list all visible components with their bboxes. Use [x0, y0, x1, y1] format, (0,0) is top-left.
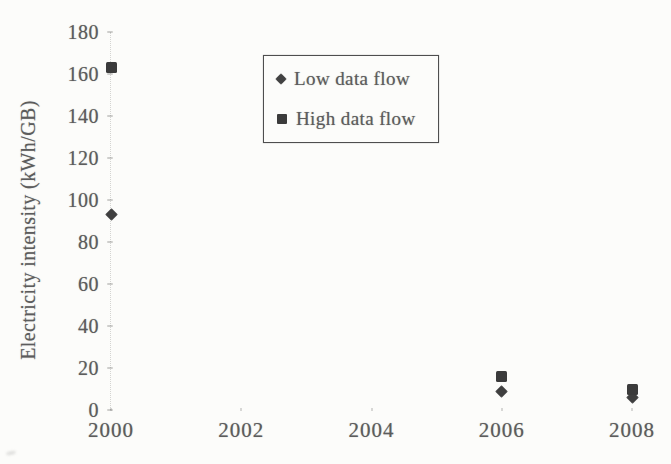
legend-label-low-data-flow: Low data flow	[294, 68, 410, 90]
scan-artifact-smudge	[6, 450, 17, 456]
y-tick-label: 60	[41, 273, 99, 295]
square-marker-icon	[277, 114, 287, 124]
y-tick-mark	[107, 115, 113, 117]
y-axis-title: Electricity intensity (kWh/GB)	[17, 100, 40, 360]
data-point-high-data-flow	[496, 371, 507, 382]
y-tick-label: 120	[41, 147, 99, 169]
legend-label-high-data-flow: High data flow	[296, 108, 416, 130]
y-tick-mark	[107, 157, 113, 159]
y-tick-mark	[107, 73, 113, 75]
y-tick-mark	[107, 31, 113, 33]
x-tick-label: 2004	[336, 419, 408, 441]
data-point-low-data-flow	[495, 385, 508, 398]
y-tick-mark	[107, 199, 113, 201]
x-tick-label: 2008	[596, 419, 668, 441]
y-tick-label: 20	[41, 357, 99, 379]
x-tick-mark	[240, 408, 242, 411]
y-tick-label: 40	[41, 315, 99, 337]
y-tick-label: 180	[41, 21, 99, 43]
legend-item-low-data-flow: Low data flow	[277, 68, 438, 90]
y-tick-mark	[107, 283, 113, 285]
y-tick-label: 100	[41, 189, 99, 211]
x-tick-mark	[501, 408, 503, 411]
x-tick-label: 2006	[466, 419, 538, 441]
scatter-chart: Electricity intensity (kWh/GB) 020406080…	[0, 0, 671, 464]
y-tick-mark	[107, 241, 113, 243]
y-tick-label: 140	[41, 105, 99, 127]
y-tick-label: 160	[41, 63, 99, 85]
y-tick-mark	[107, 325, 113, 327]
data-point-low-data-flow	[105, 208, 118, 221]
legend: Low data flow High data flow	[263, 55, 439, 143]
diamond-marker-icon	[275, 73, 286, 84]
x-tick-label: 2000	[75, 419, 147, 441]
x-tick-label: 2002	[205, 419, 277, 441]
legend-item-high-data-flow: High data flow	[277, 108, 438, 130]
data-point-high-data-flow	[627, 384, 638, 395]
x-tick-mark	[631, 408, 633, 411]
data-point-high-data-flow	[106, 62, 117, 73]
y-tick-label: 80	[41, 231, 99, 253]
y-tick-mark	[107, 367, 113, 369]
y-axis-line	[110, 32, 111, 410]
x-tick-mark	[371, 408, 373, 411]
x-tick-mark	[110, 408, 112, 411]
